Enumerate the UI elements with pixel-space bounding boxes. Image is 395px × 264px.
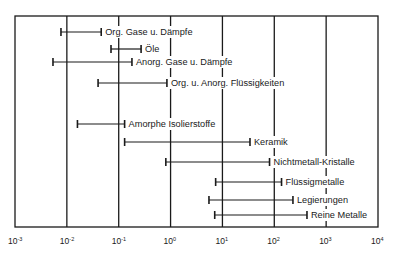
bar-label: Anorg. Gase u. Dämpfe (136, 57, 233, 67)
bar-label: Org. Gase u. Dämpfe (105, 27, 192, 37)
bar-label: Keramik (254, 137, 288, 147)
range-bar (216, 178, 282, 186)
range-bar (125, 138, 250, 146)
x-tick-label: 10-1 (112, 236, 126, 247)
x-tick-label: 104 (371, 236, 384, 247)
bar-label: Nichtmetall-Kristalle (274, 157, 355, 167)
x-tick-label: 100 (164, 236, 177, 247)
x-tick-label: 10-2 (60, 236, 74, 247)
bar-label: Flüssigmetalle (286, 177, 345, 187)
bar-label: Öle (145, 44, 159, 54)
range-bar (77, 120, 124, 128)
range-bar (98, 79, 167, 87)
x-tick-label: 103 (319, 236, 332, 247)
bar-label: Legierungen (297, 195, 348, 205)
x-axis-ticks: 10-310-210-1100101102103104 (8, 236, 384, 247)
range-chart: Org. Gase u. DämpfeÖleAnorg. Gase u. Däm… (0, 0, 395, 264)
range-bar (111, 45, 141, 53)
x-tick-label: 101 (215, 236, 228, 247)
range-bar (215, 211, 307, 219)
bar-labels: Org. Gase u. DämpfeÖleAnorg. Gase u. Däm… (105, 27, 367, 220)
x-tick-label: 102 (267, 236, 280, 247)
range-bar (53, 58, 132, 66)
range-bar (209, 196, 293, 204)
x-tick-label: 10-3 (8, 236, 22, 247)
bar-label: Amorphe Isolierstoffe (129, 119, 216, 129)
bar-label: Org. u. Anorg. Flüssigkeiten (171, 78, 284, 88)
bar-label: Reine Metalle (311, 210, 367, 220)
range-bar (166, 158, 270, 166)
